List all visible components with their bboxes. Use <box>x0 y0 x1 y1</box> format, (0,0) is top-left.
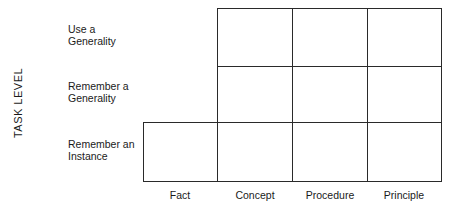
matrix-cell <box>292 122 368 182</box>
matrix-cell <box>367 122 442 182</box>
column-label-principle: Principle <box>384 189 424 201</box>
matrix-cell <box>217 8 293 67</box>
row-label-use-generality: Use a Generality <box>68 23 148 47</box>
row-label-line: Remember a <box>68 80 148 92</box>
row-label-remember-instance: Remember an Instance <box>68 138 148 162</box>
column-label-fact: Fact <box>170 189 190 201</box>
matrix-cell <box>367 66 442 123</box>
y-axis-title: TASK LEVEL <box>12 68 24 138</box>
row-label-remember-generality: Remember a Generality <box>68 80 148 104</box>
column-label-procedure: Procedure <box>306 189 354 201</box>
row-label-line: Instance <box>68 150 148 162</box>
matrix-cell <box>217 122 293 182</box>
matrix-cell <box>217 66 293 123</box>
matrix-cell <box>143 122 218 182</box>
column-label-concept: Concept <box>235 189 274 201</box>
row-label-line: Generality <box>68 35 148 47</box>
matrix-cell <box>367 8 442 67</box>
matrix-cell <box>292 66 368 123</box>
row-label-line: Generality <box>68 92 148 104</box>
row-label-line: Use a <box>68 23 148 35</box>
matrix-cell <box>292 8 368 67</box>
row-label-line: Remember an <box>68 138 148 150</box>
